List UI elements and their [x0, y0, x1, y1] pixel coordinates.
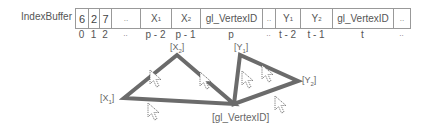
vertex-label-y1: [Y1] — [234, 42, 248, 54]
vertex-label-x1: [X1] — [100, 93, 114, 105]
cursor-arrow-icon — [275, 96, 286, 113]
vertex-label-y2: [Y2] — [302, 75, 316, 87]
cursor-arrow-icon — [200, 72, 211, 89]
cursor-arrow-icon — [148, 103, 159, 120]
triangle-x — [124, 55, 234, 104]
vertex-label-gl-vertexid: [gl_VertexID] — [212, 112, 269, 123]
cursor-arrow-icon — [242, 71, 253, 88]
vertex-label-x2: [X2] — [170, 42, 184, 54]
